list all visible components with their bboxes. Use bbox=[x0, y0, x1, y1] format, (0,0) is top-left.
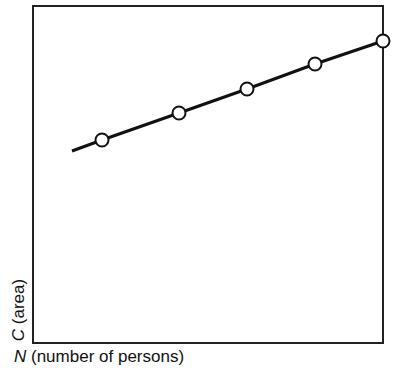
data-point-marker bbox=[309, 58, 322, 71]
data-point-marker bbox=[173, 107, 186, 120]
data-point-marker bbox=[377, 35, 390, 48]
series-line bbox=[72, 41, 383, 151]
data-point-marker bbox=[96, 134, 109, 147]
x-axis-label: N (number of persons) bbox=[14, 347, 184, 367]
data-point-marker bbox=[241, 83, 254, 96]
series-markers bbox=[96, 35, 390, 147]
plot-frame bbox=[33, 6, 383, 343]
y-axis-label: C (area) bbox=[9, 255, 29, 365]
chart-canvas bbox=[0, 0, 393, 390]
